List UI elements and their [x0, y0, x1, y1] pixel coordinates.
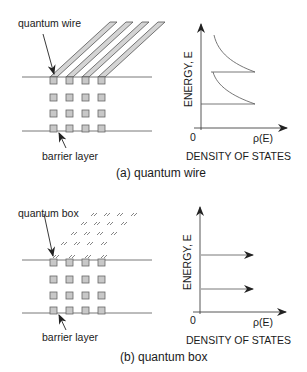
density-of-states-label-b: DENSITY OF STATES — [186, 334, 291, 346]
quantum-wire-structure — [22, 22, 165, 148]
energy-axis-label-a: ENERGY, E — [182, 51, 194, 107]
wire-cross-sections — [50, 77, 105, 132]
energy-axis-label-b: ENERGY, E — [181, 234, 193, 290]
rho-e-label-a: ρ(E) — [253, 132, 273, 144]
box-dashes — [53, 213, 137, 258]
quantum-box-structure — [22, 213, 152, 330]
wire-pointer-arrow — [43, 34, 54, 74]
wire-dos-plot — [194, 24, 287, 130]
rho-e-label-b: ρ(E) — [253, 316, 273, 328]
caption-a: (a) quantum wire — [116, 166, 206, 180]
quantum-wire-label: quantum wire — [18, 17, 81, 29]
box-pointer-arrow — [44, 214, 53, 256]
barrier-layer-label-a: barrier layer — [42, 150, 98, 162]
box-cross-sections — [50, 259, 105, 314]
box-dos-plot — [193, 207, 286, 314]
barrier-pointer-arrow-a — [59, 133, 66, 148]
barrier-layer-label-b: barrier layer — [42, 331, 98, 343]
density-of-states-label-a: DENSITY OF STATES — [186, 150, 291, 162]
barrier-pointer-arrow-b — [59, 315, 66, 330]
caption-b: (b) quantum box — [120, 350, 207, 364]
wire-stripes — [50, 22, 165, 77]
origin-label-b: 0 — [190, 314, 196, 326]
quantum-box-label: quantum box — [18, 207, 79, 219]
origin-label-a: 0 — [190, 131, 196, 143]
